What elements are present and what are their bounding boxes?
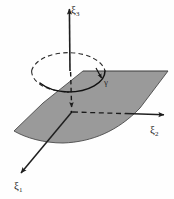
xi-3-subscript: 3 [76, 10, 80, 18]
xi-2-subscript: 2 [155, 130, 159, 138]
xi-2-axis-label: ξ2 [150, 124, 158, 135]
origin-point [70, 111, 72, 113]
xi3-axis [69, 9, 70, 71]
shaded-plane [14, 71, 168, 143]
xi-1-axis-label: ξ1 [14, 180, 22, 191]
figure-canvas [0, 0, 174, 199]
gamma-curve-label: γ [104, 78, 108, 87]
xi-1-subscript: 1 [19, 186, 23, 194]
figure-container: ξ3 ξ2 ξ1 γ [0, 0, 174, 199]
xi-3-axis-label: ξ3 [71, 4, 79, 15]
